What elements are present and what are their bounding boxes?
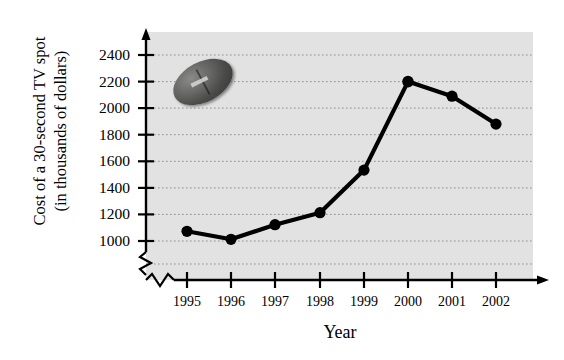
x-axis-title: Year <box>180 322 500 343</box>
x-tick-label: 1996 <box>208 294 254 310</box>
y-tick-label: 1000 <box>84 232 130 250</box>
x-tick-label: 1999 <box>341 294 387 310</box>
y-tick-label: 1200 <box>84 205 130 223</box>
data-point <box>490 119 501 130</box>
chart-figure: Cost of a 30-second TV spot (in thousand… <box>0 0 564 360</box>
y-tick-label: 1600 <box>84 152 130 170</box>
x-tick-label: 2002 <box>473 294 519 310</box>
y-tick-label: 1800 <box>84 126 130 144</box>
data-point <box>269 219 280 230</box>
x-tick-label: 2001 <box>429 294 475 310</box>
y-tick-label: 2000 <box>84 99 130 117</box>
y-tick-label: 2400 <box>84 46 130 64</box>
data-point <box>446 91 457 102</box>
y-tick-label: 1400 <box>84 179 130 197</box>
data-point <box>358 165 369 176</box>
football-laces <box>191 76 209 87</box>
data-point <box>314 207 325 218</box>
x-tick-label: 1997 <box>252 294 298 310</box>
data-point <box>181 226 192 237</box>
x-tick-label: 1998 <box>297 294 343 310</box>
data-point <box>402 76 414 88</box>
data-point <box>225 234 236 245</box>
x-tick-label: 1995 <box>164 294 210 310</box>
y-tick-label: 2200 <box>84 73 130 91</box>
x-tick-label: 2000 <box>385 294 431 310</box>
